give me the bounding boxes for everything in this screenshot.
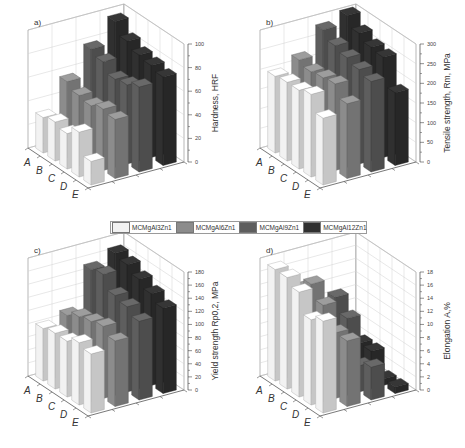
y-tick-label: 20 xyxy=(195,374,201,380)
y-axis-label: Hardness, HRF xyxy=(210,74,220,133)
x-tick-label: D xyxy=(60,181,67,192)
x-tick-label: E xyxy=(72,417,79,428)
x-tick-label: D xyxy=(60,409,67,420)
bar xyxy=(132,313,153,400)
y-tick-label: 140 xyxy=(195,295,204,301)
panel-label: b) xyxy=(266,18,273,27)
y-tick-label: 20 xyxy=(195,135,201,141)
bar xyxy=(108,111,129,179)
panel-label: a) xyxy=(34,18,41,27)
x-tick-label: C xyxy=(48,173,56,184)
y-tick-label: 160 xyxy=(195,282,204,288)
legend-item: MCMgAl6Zn1 xyxy=(175,222,236,233)
y-tick-label: 6 xyxy=(427,348,430,354)
y-tick-label: 200 xyxy=(427,80,436,86)
legend-swatch xyxy=(176,222,194,233)
y-tick-label: 40 xyxy=(195,112,201,118)
y-tick-label: 150 xyxy=(427,100,436,106)
legend-item: MCMgAl9Zn1 xyxy=(238,222,299,233)
y-axis: 024681012141618Elongation A,% xyxy=(420,269,452,393)
y-tick-label: 0 xyxy=(195,387,198,393)
y-axis: 020406080100120140160180Yield strength R… xyxy=(188,269,220,393)
y-tick-label: 0 xyxy=(195,159,198,165)
y-tick-label: 180 xyxy=(195,269,204,275)
y-tick-label: 100 xyxy=(195,41,204,47)
bar xyxy=(108,332,129,406)
legend-swatch xyxy=(239,222,257,233)
y-axis-label: Elongation A,% xyxy=(442,302,452,360)
chart-d-svg: 024681012141618Elongation A,%ABCDEd) xyxy=(232,228,465,448)
y-axis-label: Tensile strength, Rm, MPa xyxy=(442,53,452,153)
x-tick-label: D xyxy=(292,409,299,420)
y-tick-label: 60 xyxy=(195,88,201,94)
bar xyxy=(340,95,361,178)
bar xyxy=(340,332,361,406)
bar xyxy=(156,68,177,165)
chart-panel-a: 020406080100Hardness, HRFABCDEa) xyxy=(0,0,232,218)
y-tick-label: 50 xyxy=(427,139,433,145)
chart-panel-d: 024681012141618Elongation A,%ABCDEd) xyxy=(232,228,464,446)
chart-b-svg: 050100150200250300Tensile strength, Rm, … xyxy=(232,0,465,218)
y-tick-label: 100 xyxy=(195,321,204,327)
x-tick-label: A xyxy=(255,385,263,396)
bar xyxy=(84,153,105,185)
y-tick-label: 16 xyxy=(427,282,433,288)
x-tick-label: A xyxy=(23,157,31,168)
legend-label: MCMgAl9Zn1 xyxy=(259,224,299,231)
bar xyxy=(84,345,105,413)
y-tick-label: 18 xyxy=(427,269,433,275)
bar xyxy=(364,73,385,172)
bar xyxy=(132,79,153,172)
x-tick-label: E xyxy=(304,189,311,200)
chart-c-svg: 020406080100120140160180Yield strength R… xyxy=(0,228,232,448)
panel-label: c) xyxy=(34,246,41,255)
y-tick-label: 10 xyxy=(427,321,433,327)
x-tick-label: C xyxy=(48,401,56,412)
y-axis: 020406080100Hardness, HRF xyxy=(188,41,220,165)
y-tick-label: 120 xyxy=(195,308,204,314)
legend-label: MCMgAl3Zn1 xyxy=(132,224,172,231)
x-tick-label: B xyxy=(36,165,43,176)
chart-a-svg: 020406080100Hardness, HRFABCDEa) xyxy=(0,0,232,218)
y-tick-label: 60 xyxy=(195,348,201,354)
panel-label: d) xyxy=(266,246,273,255)
legend: MCMgAl3Zn1 MCMgAl6Zn1 MCMgAl9Zn1 MCMgAl1… xyxy=(110,221,367,234)
x-tick-label: B xyxy=(268,393,275,404)
y-tick-label: 0 xyxy=(427,159,430,165)
legend-label: MCMgAl6Zn1 xyxy=(196,224,236,231)
y-tick-label: 80 xyxy=(195,335,201,341)
y-tick-label: 300 xyxy=(427,41,436,47)
x-tick-label: A xyxy=(23,385,31,396)
y-tick-label: 12 xyxy=(427,308,433,314)
y-tick-label: 40 xyxy=(195,361,201,367)
chart-panel-c: 020406080100120140160180Yield strength R… xyxy=(0,228,232,446)
x-tick-label: B xyxy=(36,393,43,404)
legend-item: MCMgAl12Zn1 xyxy=(302,222,366,233)
y-axis: 050100150200250300Tensile strength, Rm, … xyxy=(420,41,452,165)
y-tick-label: 80 xyxy=(195,65,201,71)
bar xyxy=(364,359,385,400)
y-tick-label: 14 xyxy=(427,295,433,301)
legend-swatch xyxy=(112,222,130,233)
y-tick-label: 2 xyxy=(427,374,430,380)
bar xyxy=(156,300,177,394)
x-tick-label: D xyxy=(292,181,299,192)
legend-item: MCMgAl3Zn1 xyxy=(111,222,172,233)
x-tick-label: B xyxy=(268,165,275,176)
x-tick-label: E xyxy=(304,417,311,428)
x-tick-label: C xyxy=(280,173,288,184)
y-tick-label: 0 xyxy=(427,387,430,393)
bar xyxy=(316,313,337,413)
bar xyxy=(388,84,409,165)
x-tick-label: E xyxy=(72,189,79,200)
x-tick-label: A xyxy=(255,157,263,168)
chart-panel-b: 050100150200250300Tensile strength, Rm, … xyxy=(232,0,464,218)
bar xyxy=(316,110,337,185)
legend-label: MCMgAl12Zn1 xyxy=(323,224,366,231)
x-tick-label: C xyxy=(280,401,288,412)
y-tick-label: 4 xyxy=(427,361,430,367)
legend-swatch xyxy=(303,222,321,233)
y-tick-label: 100 xyxy=(427,120,436,126)
y-axis-label: Yield strength Rp0,2, MPa xyxy=(210,281,220,380)
y-tick-label: 250 xyxy=(427,61,436,67)
